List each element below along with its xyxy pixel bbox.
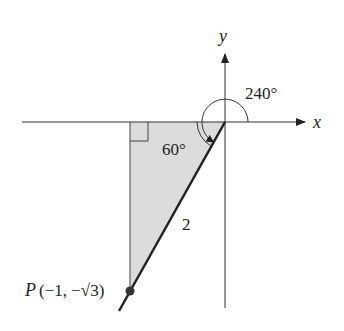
point-p-coordinates: (−1, −√3) xyxy=(39,281,104,300)
angle-240-label: 240° xyxy=(245,84,277,103)
y-axis-label: y xyxy=(217,26,227,46)
angle-60-label: 60° xyxy=(162,140,186,159)
x-axis-label: x xyxy=(312,112,321,132)
hypotenuse-length-label: 2 xyxy=(182,215,191,234)
point-p-dot xyxy=(126,287,135,296)
point-p-name: P xyxy=(24,280,36,300)
diagram-svg: y x 240° 60° 2 P (−1, −√3) xyxy=(0,0,344,331)
unit-circle-diagram: y x 240° 60° 2 P (−1, −√3) xyxy=(0,0,344,331)
